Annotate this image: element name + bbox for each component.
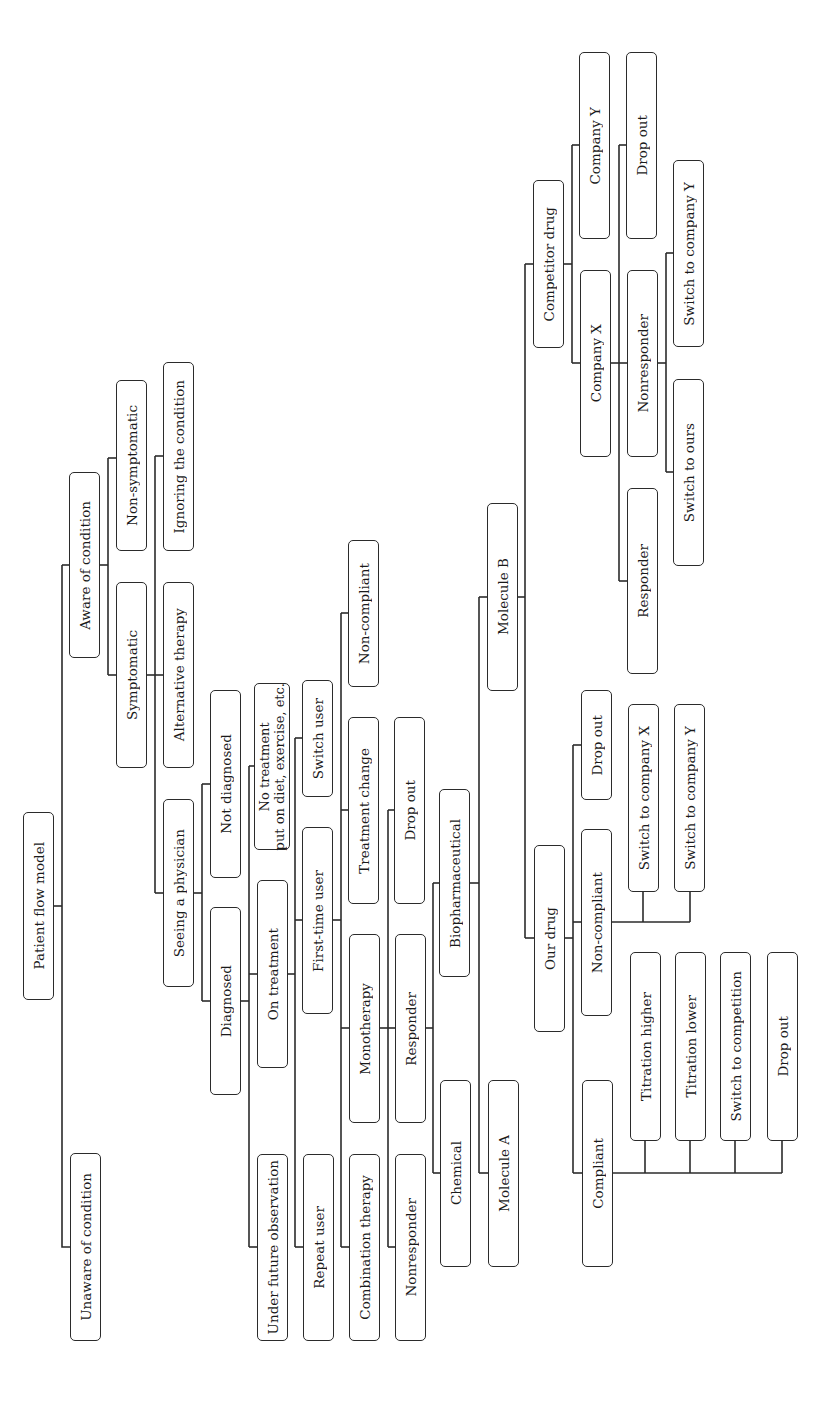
node-label: Compliant	[591, 1138, 605, 1209]
node-label: Chemical	[449, 1141, 463, 1205]
node-label: Symptomatic	[125, 630, 139, 720]
node-competitor: Competitor drug	[533, 180, 564, 348]
node-switchcomp: Switch to competition	[720, 952, 751, 1141]
node-aware: Aware of condition	[69, 472, 100, 658]
node-label: Titration lower	[684, 995, 698, 1098]
node-label: Biopharmaceutical	[448, 819, 462, 948]
node-companyY: Company Y	[579, 52, 610, 239]
node-moleculeB: Molecule B	[487, 503, 518, 691]
node-symptomatic: Symptomatic	[116, 582, 147, 768]
node-label: Company Y	[588, 107, 602, 184]
node-responder2: Responder	[627, 488, 658, 674]
node-companyX: Company X	[580, 270, 611, 457]
node-label: Molecule A	[497, 1135, 511, 1212]
node-nonresponder2: Nonresponder	[627, 270, 658, 457]
node-dropout4: Drop out	[767, 952, 798, 1141]
node-switchY: Switch to company Y	[674, 704, 705, 892]
node-label: Switch to company Y	[682, 182, 696, 326]
node-label: Company X	[589, 324, 603, 402]
node-label: Combination therapy	[358, 1175, 372, 1320]
node-ourdrug: Our drug	[534, 845, 565, 1032]
node-label: Non-symptomatic	[125, 405, 139, 526]
patient-flow-diagram: Patient flow modelUnaware of conditionAw…	[0, 0, 822, 1413]
node-label: Titration higher	[639, 992, 653, 1101]
node-label: Treatment change	[357, 748, 371, 874]
node-notreatment: No treatment put on diet, exercise, etc.	[254, 683, 290, 850]
node-chemical: Chemical	[440, 1080, 471, 1267]
node-noncompliant2: Non-compliant	[581, 829, 612, 1016]
node-moleculeA: Molecule A	[488, 1080, 519, 1267]
node-physician: Seeing a physician	[163, 799, 194, 987]
node-dropout1: Drop out	[394, 717, 425, 904]
node-label: Drop out	[590, 715, 604, 776]
node-futureobs: Under future observation	[257, 1154, 288, 1341]
node-label: Non-compliant	[590, 872, 604, 973]
node-label: Not diagnosed	[219, 734, 233, 834]
node-firsttime: First-time user	[302, 827, 333, 1014]
node-label: Molecule B	[496, 558, 510, 635]
node-notdiagnosed: Not diagnosed	[210, 690, 241, 878]
node-titrhigh: Titration higher	[630, 952, 661, 1141]
node-label: Patient flow model	[32, 842, 46, 970]
node-label: Competitor drug	[542, 207, 556, 321]
node-root: Patient flow model	[23, 812, 54, 1000]
node-switchY2: Switch to company Y	[673, 160, 704, 347]
node-dropout2: Drop out	[581, 690, 612, 800]
node-switchours: Switch to ours	[673, 379, 704, 566]
node-label: Nonresponder	[636, 314, 650, 413]
node-label: Switch to ours	[682, 423, 696, 522]
node-label: Our drug	[543, 907, 557, 970]
node-alternative: Alternative therapy	[163, 582, 194, 768]
node-label: Responder	[404, 992, 418, 1066]
node-label: No treatment put on diet, exercise, etc.	[257, 683, 287, 850]
node-monotherapy: Monotherapy	[349, 934, 380, 1123]
node-treatchange: Treatment change	[348, 717, 379, 904]
node-compliant: Compliant	[582, 1080, 613, 1267]
node-label: Drop out	[403, 780, 417, 841]
node-label: Under future observation	[266, 1160, 280, 1334]
node-label: Aware of condition	[78, 501, 92, 630]
node-responder1: Responder	[395, 934, 426, 1123]
node-label: Nonresponder	[404, 1198, 418, 1297]
node-dropout3: Drop out	[626, 52, 657, 239]
node-label: Switch to competition	[729, 971, 743, 1121]
node-noncompliant1: Non-compliant	[348, 540, 379, 687]
node-label: Unaware of condition	[79, 1173, 93, 1321]
node-label: Switch to company X	[637, 726, 651, 870]
node-biopharma: Biopharmaceutical	[439, 789, 470, 977]
node-label: Seeing a physician	[172, 829, 186, 957]
node-label: First-time user	[311, 870, 325, 972]
node-label: Non-compliant	[357, 563, 371, 664]
node-repeat: Repeat user	[303, 1154, 334, 1341]
node-combination: Combination therapy	[349, 1154, 380, 1341]
node-label: Switch user	[311, 698, 325, 779]
node-nonsymptomatic: Non-symptomatic	[116, 380, 147, 551]
node-label: Responder	[636, 544, 650, 618]
node-label: On treatment	[266, 928, 280, 1020]
node-label: Drop out	[635, 115, 649, 176]
node-nonresponder1: Nonresponder	[395, 1154, 426, 1341]
node-unaware: Unaware of condition	[70, 1153, 101, 1341]
node-diagnosed: Diagnosed	[210, 907, 241, 1095]
node-ontreatment: On treatment	[257, 880, 288, 1068]
node-label: Switch to company Y	[683, 726, 697, 870]
node-ignoring: Ignoring the condition	[163, 362, 194, 551]
node-label: Diagnosed	[219, 965, 233, 1037]
node-titrlow: Titration lower	[675, 952, 706, 1141]
node-label: Monotherapy	[358, 983, 372, 1075]
node-label: Repeat user	[312, 1206, 326, 1289]
node-label: Alternative therapy	[172, 608, 186, 741]
node-switchuser: Switch user	[302, 680, 333, 797]
node-label: Ignoring the condition	[172, 380, 186, 534]
node-label: Drop out	[776, 1016, 790, 1077]
node-switchX: Switch to company X	[628, 704, 659, 892]
